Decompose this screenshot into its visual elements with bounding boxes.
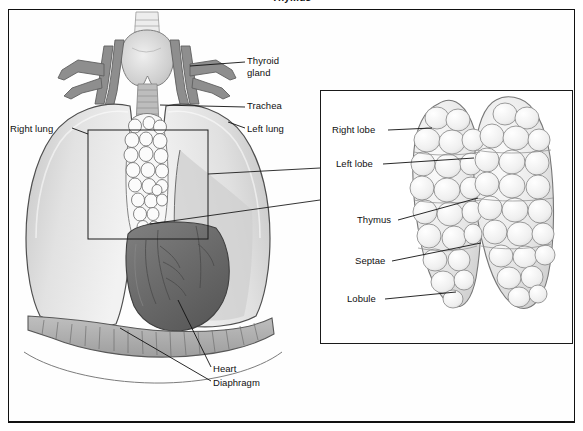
label-heart: Heart	[213, 363, 236, 375]
label-diaphragm: Diaphragm	[213, 377, 260, 389]
label-septae: Septae	[355, 255, 385, 267]
figure-title: Thymus	[0, 0, 583, 4]
label-left-lobe: Left lobe	[336, 158, 373, 170]
label-thymus: Thymus	[357, 214, 391, 226]
label-right-lung: Right lung	[10, 123, 53, 135]
thymus-anatomy-figure: Thymus	[0, 0, 583, 431]
label-left-lung: Left lung	[247, 123, 284, 135]
label-right-lobe: Right lobe	[332, 124, 375, 136]
label-thyroid-gland: Thyroid gland	[247, 55, 279, 78]
label-trachea: Trachea	[247, 100, 282, 112]
label-lobule: Lobule	[347, 293, 376, 305]
